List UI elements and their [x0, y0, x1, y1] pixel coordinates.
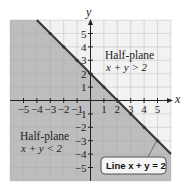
x-tick-label: 4 — [141, 103, 147, 115]
line-label: Line x + y = 2 — [106, 160, 166, 171]
x-tick-label: −2 — [58, 103, 70, 115]
y-tick-label: 1 — [81, 81, 87, 93]
y-tick-label: −2 — [75, 121, 87, 133]
y-axis-label: y — [85, 5, 92, 19]
line-point — [62, 45, 65, 48]
x-axis-label: x — [174, 92, 181, 106]
line-point — [102, 86, 105, 89]
line-point — [129, 112, 132, 115]
upper-region-equation: x + y > 2 — [105, 61, 148, 73]
y-tick-label: −1 — [75, 108, 87, 120]
x-tick-label: −3 — [44, 103, 56, 115]
y-tick-label: −3 — [75, 135, 87, 147]
x-tick-label: 1 — [101, 103, 107, 115]
line-point — [116, 99, 119, 102]
y-tick-label: −4 — [75, 148, 87, 160]
x-tick-label: 5 — [155, 103, 161, 115]
lower-region-equation: x + y < 2 — [20, 142, 63, 154]
coordinate-graph: −5−4−3−2−112345−5−4−3−2−112345 y x Half-… — [0, 0, 185, 184]
y-tick-label: −5 — [75, 162, 87, 174]
line-point — [89, 72, 92, 75]
line-point — [143, 126, 146, 129]
line-point — [76, 59, 79, 62]
y-tick-label: 5 — [81, 28, 87, 40]
x-tick-label: 2 — [115, 103, 121, 115]
x-tick-label: −4 — [31, 103, 43, 115]
line-point — [49, 32, 52, 35]
x-tick-label: −5 — [18, 103, 30, 115]
y-tick-label: 4 — [81, 41, 87, 53]
